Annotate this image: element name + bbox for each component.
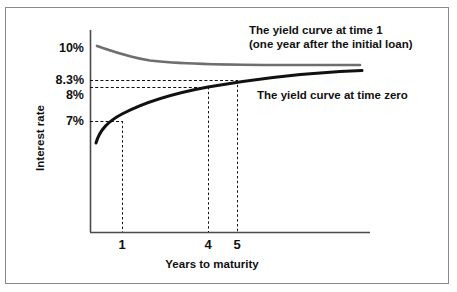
y-axis-title: Interest rate <box>34 88 46 188</box>
annotation-yield-curve-time-zero: The yield curve at time zero <box>257 88 408 102</box>
ytick-label-8-3-percent: 8.3% <box>22 74 84 87</box>
ytick-label-10-percent: 10% <box>22 42 84 55</box>
annotation-time-1-line-1: The yield curve at time 1 <box>249 23 413 37</box>
y-axis-title-wrapper: Interest rate <box>30 90 48 190</box>
xtick-label-4: 4 <box>193 238 223 251</box>
xtick-label-5: 5 <box>222 238 252 251</box>
annotation-yield-curve-time-1: The yield curve at time 1 (one year afte… <box>249 23 413 51</box>
curve-yield-time-zero <box>96 71 362 144</box>
annotation-time-1-line-2: (one year after the initial loan) <box>249 37 413 51</box>
chart-figure: 10% 8.3% 8% 7% 1 4 5 Interest rate Years… <box>0 0 457 292</box>
x-axis-title: Years to maturity <box>137 258 287 270</box>
xtick-label-1: 1 <box>107 238 137 251</box>
